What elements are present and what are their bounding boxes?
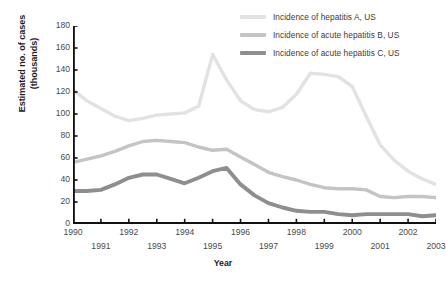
hepatitis-incidence-chart: Incidence of hepatitis A, US Incidence o…: [0, 0, 446, 281]
y-tick-label: 20: [42, 197, 70, 206]
x-tick-label: 2003: [419, 242, 446, 251]
x-tick-label: 1990: [56, 228, 90, 237]
x-tick-label: 1998: [279, 228, 313, 237]
x-tick-label: 2001: [363, 242, 397, 251]
y-axis-title: Estimated no. of cases (thousands): [17, 0, 40, 149]
x-tick-label: 1991: [84, 242, 118, 251]
y-axis-title-line2: (thousands): [28, 0, 40, 149]
x-tick-label: 1995: [196, 242, 230, 251]
x-axis-tick-labels: 1990199119921993199419951996199719981999…: [0, 224, 446, 258]
plot-area: [73, 26, 436, 224]
series-line-2: [73, 168, 436, 216]
y-tick-label: 140: [42, 65, 70, 74]
y-tick-label: 60: [42, 153, 70, 162]
y-tick-label: 80: [42, 131, 70, 140]
legend-item-hepatitis-a: Incidence of hepatitis A, US: [240, 9, 446, 25]
y-tick-label: 180: [42, 21, 70, 30]
x-tick-label: 2000: [335, 228, 369, 237]
series-line-1: [73, 140, 436, 197]
y-axis-title-line1: Estimated no. of cases: [17, 0, 29, 149]
y-tick-label: 40: [42, 175, 70, 184]
legend-swatch-hepatitis-a: [240, 15, 266, 18]
x-tick-label: 2002: [391, 228, 425, 237]
legend-label-hepatitis-a: Incidence of hepatitis A, US: [273, 12, 376, 22]
y-tick-label: 100: [42, 109, 70, 118]
x-tick-label: 1999: [307, 242, 341, 251]
x-tick-label: 1996: [224, 228, 258, 237]
x-tick-label: 1992: [112, 228, 146, 237]
y-tick-label: 120: [42, 87, 70, 96]
x-tick-label: 1997: [251, 242, 285, 251]
x-tick-label: 1994: [168, 228, 202, 237]
series-canvas: [73, 26, 436, 224]
x-tick-label: 1993: [140, 242, 174, 251]
y-tick-label: 160: [42, 43, 70, 52]
x-axis-title: Year: [0, 258, 446, 268]
